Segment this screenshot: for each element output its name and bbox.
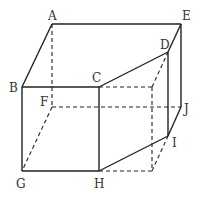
- label-F: F: [40, 95, 48, 109]
- edge-L-I: [152, 136, 168, 171]
- edge-C-D: [99, 52, 168, 87]
- edge-D-E: [168, 24, 181, 52]
- vertex-labels: A E D B C F J I G H: [9, 9, 191, 191]
- edge-H-I: [99, 136, 168, 171]
- cube-diagram: A E D B C F J I G H: [0, 0, 203, 197]
- edge-A-B: [22, 24, 52, 87]
- edge-F-G: [22, 107, 52, 171]
- label-G: G: [16, 177, 26, 191]
- label-A: A: [47, 9, 57, 23]
- label-C: C: [92, 71, 101, 85]
- label-H: H: [94, 177, 104, 191]
- label-I: I: [172, 136, 177, 150]
- label-B: B: [9, 81, 18, 95]
- edge-K-D: [152, 52, 168, 87]
- label-J: J: [182, 102, 189, 116]
- label-E: E: [182, 9, 191, 23]
- edge-I-J: [168, 107, 181, 136]
- label-D: D: [160, 38, 170, 52]
